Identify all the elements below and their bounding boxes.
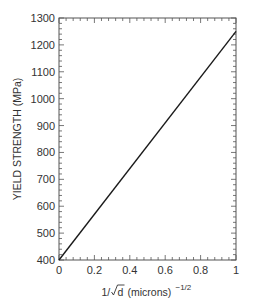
x-axis-title-exponent: −1/2 [176, 283, 192, 292]
y-tick-label: 1000 [31, 93, 55, 105]
x-tick-label: 0.2 [87, 264, 102, 276]
plot-frame [59, 18, 236, 260]
x-tick-labels: 00.20.40.60.81 [56, 264, 239, 276]
y-tick-label: 400 [37, 254, 55, 266]
y-axis-title: YIELD STRENGTH (MPa) [11, 78, 23, 201]
y-tick-label: 700 [37, 173, 55, 185]
x-tick-label: 0.4 [122, 264, 137, 276]
y-axis-label: YIELD STRENGTH (MPa) [11, 78, 23, 201]
x-tick-label: 1 [233, 264, 239, 276]
y-tick-label: 800 [37, 146, 55, 158]
y-tick-label: 500 [37, 227, 55, 239]
y-tick-label: 1200 [31, 39, 55, 51]
y-tick-label: 900 [37, 120, 55, 132]
x-tick-label: 0 [56, 264, 62, 276]
data-series [59, 31, 236, 260]
axis-ticks [59, 18, 236, 260]
y-tick-labels: 4005006007008009001000110012001300 [31, 12, 55, 266]
y-tick-label: 1100 [31, 66, 55, 78]
chart: YIELD STRENGTH (MPa) 4005006007008009001… [0, 0, 254, 306]
series-line [59, 31, 236, 260]
x-axis-title-units: (microns) [128, 286, 172, 298]
x-axis-title-prefix: 1/ [102, 286, 111, 298]
x-axis-title-radicand: d [118, 286, 124, 298]
y-tick-label: 1300 [31, 12, 55, 24]
x-axis-label: 1/d(microns)−1/2 [102, 283, 192, 298]
x-tick-label: 0.8 [193, 264, 208, 276]
y-tick-label: 600 [37, 200, 55, 212]
x-tick-label: 0.6 [158, 264, 173, 276]
